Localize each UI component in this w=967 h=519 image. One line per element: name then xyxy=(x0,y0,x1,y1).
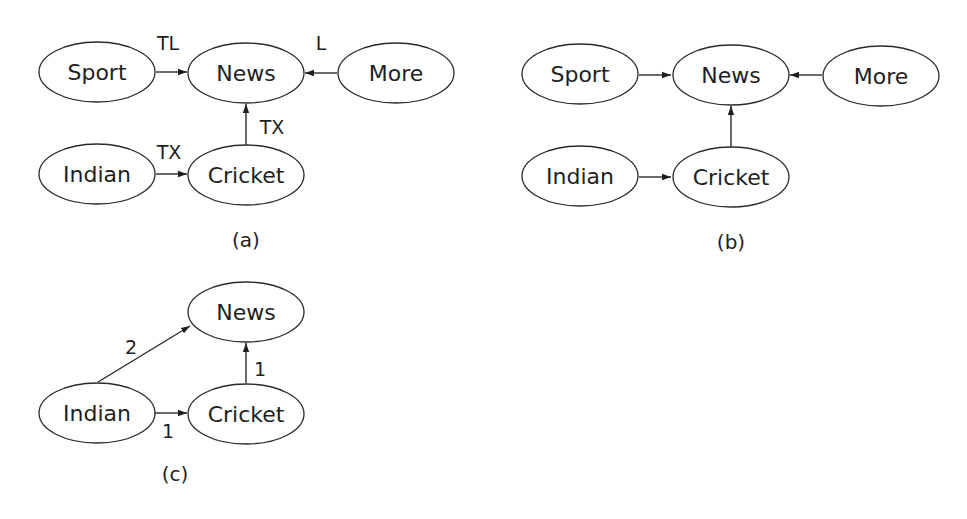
node-label: Sport xyxy=(67,60,126,85)
caption-c: (c) xyxy=(162,462,189,486)
node-label: Indian xyxy=(63,162,131,187)
node-label: Indian xyxy=(63,401,131,426)
edge-indian-news xyxy=(98,326,190,382)
node-label: More xyxy=(369,61,424,86)
node-more: More xyxy=(823,46,939,106)
node-cricket: Cricket xyxy=(188,145,304,205)
node-label: Cricket xyxy=(693,165,770,190)
node-label: News xyxy=(701,63,760,88)
node-label: Sport xyxy=(550,62,609,87)
node-sport: Sport xyxy=(39,42,155,102)
edge-label-cricket-news: TX xyxy=(259,116,285,138)
node-label: More xyxy=(854,64,909,89)
node-cricket: Cricket xyxy=(188,384,304,444)
edge-label-more-news: L xyxy=(316,32,327,54)
diagram-canvas: TL L TX TX Sport News More Indian Cricke… xyxy=(0,0,967,519)
node-cricket: Cricket xyxy=(673,147,789,207)
panel-c: 2 1 1 News Indian Cricket (c) xyxy=(39,282,304,486)
node-label: News xyxy=(216,300,275,325)
panel-b: Sport News More Indian Cricket (b) xyxy=(522,44,939,254)
node-label: Indian xyxy=(546,164,614,189)
node-indian: Indian xyxy=(39,383,155,443)
node-label: News xyxy=(216,61,275,86)
node-sport: Sport xyxy=(522,44,638,104)
edge-label-indian-news: 2 xyxy=(125,336,137,358)
caption-a: (a) xyxy=(232,228,260,252)
node-news: News xyxy=(188,282,304,342)
edge-label-indian-cricket: TX xyxy=(156,141,182,163)
node-indian: Indian xyxy=(522,146,638,206)
node-indian: Indian xyxy=(39,144,155,204)
node-news: News xyxy=(673,45,789,105)
node-more: More xyxy=(338,43,454,103)
edge-label-indian-cricket: 1 xyxy=(162,420,174,442)
panel-a: TL L TX TX Sport News More Indian Cricke… xyxy=(39,32,454,252)
node-label: Cricket xyxy=(208,163,285,188)
edge-label-cricket-news: 1 xyxy=(254,358,266,380)
node-news: News xyxy=(188,43,304,103)
caption-b: (b) xyxy=(717,230,745,254)
edge-label-sport-news: TL xyxy=(156,32,180,54)
node-label: Cricket xyxy=(208,402,285,427)
